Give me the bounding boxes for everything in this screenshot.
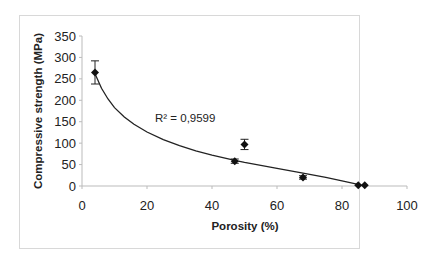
y-tick-label: 0 xyxy=(69,179,76,194)
scatter-chart: 050100150200250300350020406080100 R² = 0… xyxy=(0,0,447,263)
x-tick-label: 80 xyxy=(335,198,349,213)
x-tick-label: 100 xyxy=(396,198,418,213)
x-tick-label: 20 xyxy=(140,198,154,213)
y-tick-label: 150 xyxy=(54,114,76,129)
data-point-marker xyxy=(361,181,369,189)
data-points xyxy=(91,61,369,189)
y-axis-title: Compressive strength (MPa) xyxy=(32,33,44,189)
data-point-marker xyxy=(241,140,249,148)
x-tick-label: 40 xyxy=(205,198,219,213)
y-tick-label: 100 xyxy=(54,136,76,151)
y-tick-label: 350 xyxy=(54,29,76,44)
y-tick-label: 300 xyxy=(54,50,76,65)
y-tick-label: 200 xyxy=(54,93,76,108)
trendline xyxy=(95,74,362,185)
x-tick-label: 60 xyxy=(270,198,284,213)
x-axis-title: Porosity (%) xyxy=(211,220,278,232)
data-point-marker xyxy=(231,157,239,165)
y-tick-label: 250 xyxy=(54,71,76,86)
data-point-marker xyxy=(299,173,307,181)
data-point-marker xyxy=(91,68,99,76)
y-tick-label: 50 xyxy=(62,157,76,172)
x-tick-label: 0 xyxy=(78,198,85,213)
r-squared-annotation: R² = 0,9599 xyxy=(155,112,215,124)
